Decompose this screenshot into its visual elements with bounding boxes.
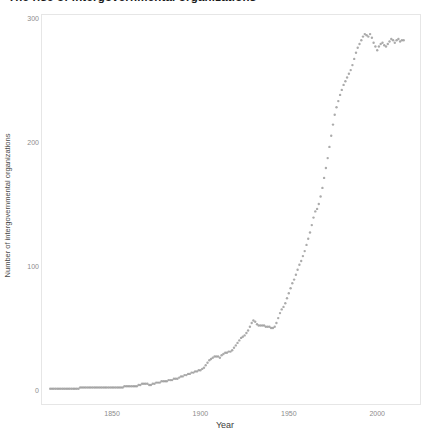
data-point (357, 47, 359, 49)
data-point (247, 329, 249, 331)
data-point (350, 69, 352, 71)
data-point (388, 40, 390, 42)
data-point (251, 322, 253, 324)
data-point (279, 312, 281, 314)
data-point (378, 45, 380, 47)
data-point (277, 317, 279, 319)
data-point (233, 347, 235, 349)
data-point (387, 43, 389, 45)
data-point (231, 349, 233, 351)
data-point (339, 94, 341, 96)
data-point (327, 157, 329, 159)
data-point (302, 255, 304, 257)
data-point (348, 73, 350, 75)
data-point (372, 42, 374, 44)
data-point (351, 64, 353, 66)
data-point (305, 244, 307, 246)
data-point (341, 89, 343, 91)
data-point (316, 208, 318, 210)
data-point (243, 334, 245, 336)
data-point (362, 35, 364, 37)
data-point (275, 322, 277, 324)
data-point (238, 339, 240, 341)
data-point (318, 203, 320, 205)
data-point (330, 135, 332, 137)
scatter-points (0, 0, 427, 441)
data-point (281, 308, 283, 310)
data-point (369, 33, 371, 35)
data-point (323, 177, 325, 179)
data-point (235, 344, 237, 346)
x-axis-title: Year (111, 420, 339, 430)
data-point (360, 39, 362, 41)
data-point (291, 282, 293, 284)
data-point (286, 297, 288, 299)
data-point (371, 37, 373, 39)
data-point (249, 326, 251, 328)
data-point (385, 45, 387, 47)
data-point (358, 43, 360, 45)
data-point (355, 52, 357, 54)
data-point (300, 260, 302, 262)
data-point (397, 38, 399, 40)
data-point (325, 167, 327, 169)
data-point (284, 302, 286, 304)
data-point (219, 357, 221, 359)
x-tick-label: 2000 (357, 410, 397, 417)
data-point (319, 195, 321, 197)
data-point (311, 224, 313, 226)
data-point (394, 42, 396, 44)
data-point (312, 216, 314, 218)
data-point (403, 39, 405, 41)
y-tick-label: 100 (9, 263, 39, 270)
data-point (254, 321, 256, 323)
data-point (335, 106, 337, 108)
data-point (274, 326, 276, 328)
x-tick-label: 1900 (180, 410, 220, 417)
x-tick-label: 1950 (269, 410, 309, 417)
data-point (332, 123, 334, 125)
data-point (296, 269, 298, 271)
data-point (282, 306, 284, 308)
data-point (298, 264, 300, 266)
data-point (346, 76, 348, 78)
data-point (289, 287, 291, 289)
data-point (367, 35, 369, 37)
data-point (353, 58, 355, 60)
data-point (309, 231, 311, 233)
data-point (376, 49, 378, 51)
data-point (337, 100, 339, 102)
data-point (236, 342, 238, 344)
data-point (245, 332, 247, 334)
data-point (304, 250, 306, 252)
chart-figure: The rise of intergovernmental organizati… (0, 0, 427, 441)
data-point (293, 278, 295, 280)
data-point (288, 292, 290, 294)
y-tick-label: 300 (9, 15, 39, 22)
y-tick-label: 0 (9, 387, 39, 394)
data-point (295, 274, 297, 276)
data-point (321, 187, 323, 189)
data-point (206, 362, 208, 364)
y-tick-label: 200 (9, 139, 39, 146)
data-point (344, 80, 346, 82)
data-point (334, 114, 336, 116)
data-point (205, 364, 207, 366)
data-point (307, 238, 309, 240)
data-point (203, 367, 205, 369)
data-point (374, 45, 376, 47)
data-point (392, 39, 394, 41)
data-point (314, 210, 316, 212)
data-point (381, 42, 383, 44)
data-point (328, 146, 330, 148)
data-point (342, 84, 344, 86)
x-tick-label: 1850 (92, 410, 132, 417)
